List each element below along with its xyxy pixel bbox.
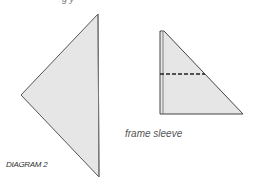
frame-sleeve-label: frame sleeve: [125, 128, 182, 139]
top-cut-text: g y: [62, 0, 74, 4]
right-triangle: [160, 31, 243, 114]
diagram-canvas: [0, 0, 255, 186]
diagram-number-label: DIAGRAM 2: [6, 160, 47, 169]
left-triangle: [21, 14, 99, 177]
